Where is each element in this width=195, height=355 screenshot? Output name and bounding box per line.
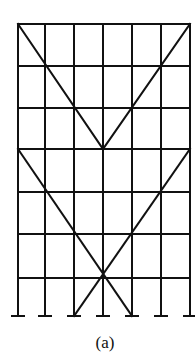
figure-caption: (a) — [0, 333, 195, 353]
diagonal-brace — [18, 24, 103, 149]
diagonal-brace — [103, 24, 190, 149]
braced-frame-diagram — [0, 0, 195, 355]
